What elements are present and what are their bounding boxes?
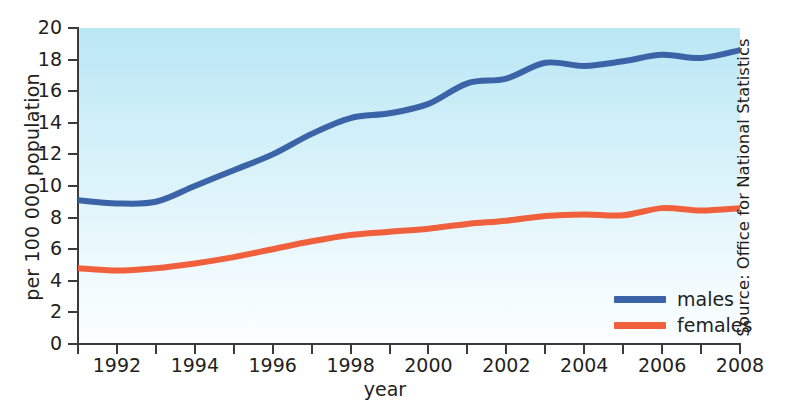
y-tick-14 [68,122,78,124]
y-tick-label-20: 20 [22,18,62,37]
x-tick-label-1998: 1998 [311,356,391,375]
y-tick-16 [68,90,78,92]
y-tick-label-0: 0 [22,334,62,353]
x-tick-2006 [661,345,663,354]
y-tick-label-2: 2 [22,302,62,321]
x-tick-2002 [505,345,507,354]
y-tick-6 [68,248,78,250]
x-tick-2004 [583,345,585,354]
x-tick-label-2000: 2000 [388,356,468,375]
legend-item-males: males [614,286,752,312]
y-tick-label-10: 10 [22,176,62,195]
y-tick-12 [68,153,78,155]
x-tick-2000 [427,345,429,354]
x-tick-2005 [622,345,624,354]
y-tick-20 [68,27,78,29]
x-tick-1993 [155,345,157,354]
y-tick-2 [68,311,78,313]
y-tick-4 [68,280,78,282]
y-tick-label-8: 8 [22,208,62,227]
chart-figure: per 100 000 population 02468101214161820… [0,0,808,419]
x-tick-label-1996: 1996 [233,356,313,375]
y-tick-label-14: 14 [22,113,62,132]
y-tick-10 [68,185,78,187]
legend-swatch-males [614,296,666,303]
legend-swatch-females [614,322,666,329]
y-tick-label-18: 18 [22,50,62,69]
x-tick-1999 [389,345,391,354]
x-tick-2001 [466,345,468,354]
x-tick-1996 [272,345,274,354]
line-series-females [78,208,740,271]
x-tick-label-1992: 1992 [77,356,157,375]
x-tick-label-2002: 2002 [466,356,546,375]
x-tick-label-2008: 2008 [700,356,780,375]
source-note: Source: Office for National Statistics [734,23,753,353]
x-tick-1997 [311,345,313,354]
line-series-males [78,50,740,204]
y-tick-label-6: 6 [22,239,62,258]
x-tick-2003 [544,345,546,354]
y-tick-label-16: 16 [22,81,62,100]
x-tick-label-2004: 2004 [544,356,624,375]
x-tick-2007 [700,345,702,354]
y-tick-8 [68,217,78,219]
x-tick-1998 [350,345,352,354]
y-tick-18 [68,59,78,61]
x-tick-1995 [233,345,235,354]
x-tick-label-2006: 2006 [622,356,702,375]
x-axis-title: year [0,378,770,400]
x-tick-1992 [116,345,118,354]
legend-item-females: females [614,312,752,338]
y-tick-label-4: 4 [22,271,62,290]
chart-legend: males females [614,286,752,338]
x-tick-1994 [194,345,196,354]
legend-label-males: males [677,290,734,309]
x-tick-1991 [77,345,79,354]
y-tick-label-12: 12 [22,144,62,163]
x-tick-label-1994: 1994 [155,356,235,375]
